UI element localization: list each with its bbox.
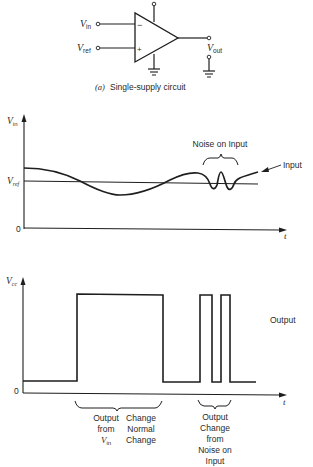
normal-change-annotation: Output from Vin Change Normal Change <box>93 413 156 446</box>
svg-text:Output: Output <box>202 412 228 422</box>
input-t-label: t <box>284 231 287 241</box>
input-zero-label: 0 <box>16 224 21 234</box>
minus-sign: − <box>137 20 142 30</box>
output-ground-icon <box>203 71 215 77</box>
input-pointer-arrow-icon <box>261 167 269 172</box>
input-x-axis <box>24 228 280 230</box>
ground-icon <box>148 69 160 75</box>
svg-text:from: from <box>98 424 115 434</box>
circuit-caption: (a) Single-supply circuit <box>95 82 186 92</box>
vref-axis-label: Vref <box>7 176 21 187</box>
vout-terminal-icon <box>207 36 211 40</box>
input-y-axis-label: Vin <box>7 116 17 127</box>
noise-change-brace-icon <box>198 400 231 409</box>
noise-change-annotation: Output Change from Noise on Input <box>198 412 232 466</box>
vref-line <box>24 181 258 184</box>
output-zero-label: 0 <box>14 386 19 396</box>
comparator-diagram: Vin − Vref + Vout (a) Single-supply circ… <box>0 0 313 467</box>
output-y-axis-label: Vcc <box>6 276 17 287</box>
svg-text:Output: Output <box>93 413 119 423</box>
input-pointer-line <box>267 165 281 170</box>
output-x-axis <box>23 393 280 395</box>
normal-change-brace-icon <box>75 401 162 411</box>
vref-label: Vref <box>77 42 91 54</box>
output-y-axis-arrow-icon <box>21 277 26 285</box>
svg-text:Change: Change <box>126 413 156 423</box>
svg-text:Normal: Normal <box>127 424 155 434</box>
input-label: Input <box>283 160 303 170</box>
svg-text:Noise on: Noise on <box>198 445 232 455</box>
vin-terminal-icon <box>96 22 100 26</box>
noise-brace-icon <box>203 154 238 165</box>
svg-text:from: from <box>207 434 224 444</box>
svg-text:Input: Input <box>206 456 226 466</box>
output-label: Output <box>270 315 296 325</box>
svg-text:Change: Change <box>126 435 156 445</box>
op-amp-circuit: Vin − Vref + Vout (a) Single-supply circ… <box>77 2 222 92</box>
noise-label: Noise on Input <box>193 139 248 149</box>
output-t-label: t <box>283 397 286 407</box>
output-chart: Vcc 0 t Output Output from Vin Change No… <box>6 276 296 466</box>
supply-terminal-icon <box>152 2 156 6</box>
vout-label: Vout <box>207 42 222 54</box>
vout-ground-terminal-icon <box>207 55 211 59</box>
input-chart: Vin Vref 0 t Noise on Input Input <box>7 114 303 241</box>
vin-label: Vin <box>80 18 92 30</box>
input-y-axis-arrow-icon <box>22 114 27 122</box>
output-waveform <box>23 294 256 382</box>
svg-text:Vin: Vin <box>101 435 111 446</box>
plus-sign: + <box>137 45 142 54</box>
vref-terminal-icon <box>96 46 100 50</box>
svg-text:Change: Change <box>200 423 230 433</box>
